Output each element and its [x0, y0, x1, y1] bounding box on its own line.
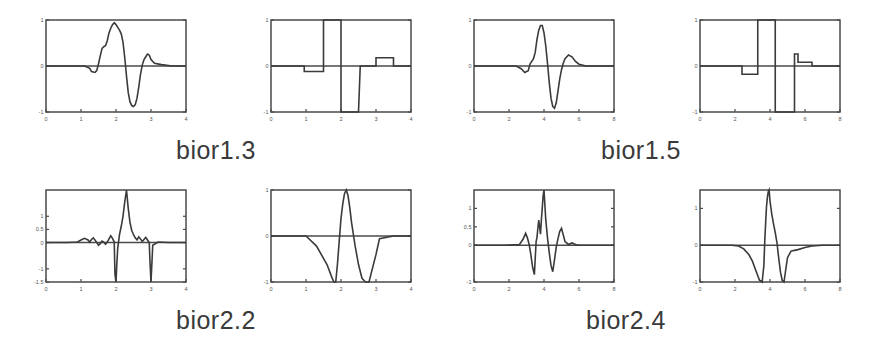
svg-text:2: 2 [114, 286, 117, 292]
svg-text:6: 6 [577, 286, 580, 292]
svg-text:1: 1 [304, 286, 307, 292]
wave-curve [46, 190, 186, 282]
svg-text:0.5: 0.5 [36, 226, 44, 232]
svg-text:0.5: 0.5 [464, 224, 472, 230]
plot-bior1-3-scaling: 01234-101 [30, 16, 190, 128]
caption-bior1-5: bior1.5 [601, 136, 681, 165]
svg-text:0: 0 [694, 242, 697, 248]
svg-text:0: 0 [472, 116, 475, 122]
svg-text:0: 0 [265, 63, 268, 69]
plot-bior2-4-wavelet: 02468-101 [684, 186, 844, 298]
wave-curve [46, 23, 186, 107]
svg-text:0: 0 [698, 286, 701, 292]
caption-bior2-2: bior2.2 [176, 306, 256, 335]
svg-text:-1: -1 [693, 279, 698, 285]
svg-text:1: 1 [79, 286, 82, 292]
svg-text:0: 0 [269, 286, 272, 292]
bior2.2-decomposition-wavelet: 01234-101 [255, 186, 415, 298]
svg-text:-1: -1 [39, 266, 44, 272]
svg-text:1: 1 [40, 17, 43, 23]
svg-text:0: 0 [40, 63, 43, 69]
bior2.2-decomposition-scaling: 01234-1.5-100.51 [30, 186, 190, 298]
svg-text:6: 6 [577, 116, 580, 122]
svg-text:4: 4 [542, 286, 545, 292]
svg-text:0: 0 [472, 286, 475, 292]
svg-text:3: 3 [374, 116, 377, 122]
wave-curve [700, 190, 840, 282]
svg-text:-1: -1 [693, 109, 698, 115]
svg-text:-1: -1 [39, 109, 44, 115]
plot-bior2-4-scaling: 02468-100.51 [458, 186, 618, 298]
caption-bior2-4: bior2.4 [586, 306, 666, 335]
svg-text:0: 0 [698, 116, 701, 122]
svg-text:0: 0 [265, 233, 268, 239]
svg-text:2: 2 [733, 286, 736, 292]
wavelet-figure: 01234-101 01234-101 02468-101 02468-101 … [0, 0, 885, 349]
svg-text:1: 1 [694, 17, 697, 23]
svg-text:1: 1 [694, 205, 697, 211]
svg-text:4: 4 [768, 116, 771, 122]
caption-bior1-3: bior1.3 [176, 136, 256, 165]
svg-text:4: 4 [184, 286, 187, 292]
svg-text:8: 8 [838, 116, 841, 122]
plot-bior1-5-wavelet: 02468-101 [684, 16, 844, 128]
svg-text:8: 8 [838, 286, 841, 292]
bior1.5-decomposition-scaling: 02468-101 [458, 16, 618, 128]
svg-text:4: 4 [184, 116, 187, 122]
svg-text:2: 2 [507, 286, 510, 292]
wave-curve [474, 190, 614, 275]
svg-text:-1: -1 [264, 109, 269, 115]
svg-text:2: 2 [339, 286, 342, 292]
svg-text:8: 8 [612, 116, 615, 122]
svg-text:-1.5: -1.5 [34, 279, 43, 285]
plot-bior1-3-wavelet: 01234-101 [255, 16, 415, 128]
svg-text:0: 0 [468, 63, 471, 69]
svg-text:4: 4 [768, 286, 771, 292]
plot-bior2-2-scaling: 01234-1.5-100.51 [30, 186, 190, 298]
svg-text:0: 0 [40, 240, 43, 246]
plot-bior1-5-scaling: 02468-101 [458, 16, 618, 128]
bior1.3-decomposition-wavelet: 01234-101 [255, 16, 415, 128]
svg-text:1: 1 [79, 116, 82, 122]
svg-text:1: 1 [265, 17, 268, 23]
svg-text:-1: -1 [467, 109, 472, 115]
plot-bior2-2-wavelet: 01234-101 [255, 186, 415, 298]
svg-text:1: 1 [265, 187, 268, 193]
svg-text:0: 0 [44, 116, 47, 122]
svg-text:1: 1 [468, 17, 471, 23]
svg-text:0: 0 [694, 63, 697, 69]
svg-text:2: 2 [114, 116, 117, 122]
svg-text:4: 4 [542, 116, 545, 122]
svg-text:4: 4 [409, 286, 412, 292]
svg-text:6: 6 [803, 116, 806, 122]
bior1.5-decomposition-wavelet: 02468-101 [684, 16, 844, 128]
svg-text:3: 3 [149, 116, 152, 122]
bior2.4-decomposition-scaling: 02468-100.51 [458, 186, 618, 298]
svg-text:2: 2 [507, 116, 510, 122]
svg-text:2: 2 [339, 116, 342, 122]
svg-text:1: 1 [468, 205, 471, 211]
svg-text:0: 0 [468, 242, 471, 248]
wave-curve [474, 26, 614, 109]
svg-text:3: 3 [149, 286, 152, 292]
svg-text:0: 0 [44, 286, 47, 292]
svg-text:-1: -1 [467, 279, 472, 285]
svg-text:1: 1 [40, 213, 43, 219]
svg-text:4: 4 [409, 116, 412, 122]
svg-text:0: 0 [269, 116, 272, 122]
svg-text:-1: -1 [264, 279, 269, 285]
bior1.3-decomposition-scaling: 01234-101 [30, 16, 190, 128]
bior2.4-decomposition-wavelet: 02468-101 [684, 186, 844, 298]
svg-text:3: 3 [374, 286, 377, 292]
svg-text:1: 1 [304, 116, 307, 122]
svg-text:2: 2 [733, 116, 736, 122]
svg-text:6: 6 [803, 286, 806, 292]
svg-text:8: 8 [612, 286, 615, 292]
